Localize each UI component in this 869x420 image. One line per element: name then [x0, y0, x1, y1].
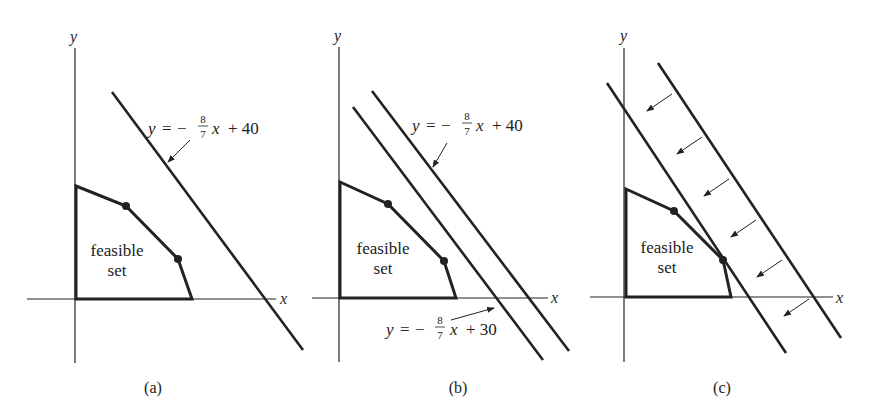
svg-text:=: = [426, 116, 436, 135]
y-axis-label: y [618, 27, 628, 45]
svg-text:7: 7 [464, 125, 470, 137]
svg-text:8: 8 [464, 110, 470, 122]
svg-text:x: x [475, 116, 484, 135]
line-label-40: y = − 8 7 x + 40 [146, 113, 259, 140]
svg-text:=: = [162, 119, 172, 138]
x-axis-label: x [835, 289, 843, 306]
svg-text:=: = [400, 320, 410, 339]
region-label-line1: feasible [357, 239, 410, 258]
linear-programming-figure: y x feasible set y = − 8 7 x + 40 (a) y … [0, 0, 869, 420]
pointer-arrow [168, 140, 190, 162]
y-axis-label: y [68, 28, 78, 46]
svg-text:8: 8 [200, 113, 206, 125]
svg-text:y: y [384, 320, 394, 339]
region-label-line1: feasible [641, 238, 694, 257]
region-label-line2: set [658, 258, 677, 277]
svg-text:7: 7 [437, 329, 443, 341]
svg-text:7: 7 [200, 128, 206, 140]
svg-text:x: x [211, 119, 220, 138]
svg-text:y: y [146, 119, 156, 138]
panel-caption: (c) [713, 379, 731, 397]
panel-caption: (a) [144, 379, 162, 397]
pointer-arrow [433, 143, 447, 167]
line-label-30: y = − 8 7 x + 30 [384, 314, 497, 341]
line-label-40: y = − 8 7 x + 40 [410, 110, 523, 137]
pointer-arrow [451, 308, 494, 320]
region-label-line2: set [374, 259, 393, 278]
panel-caption: (b) [449, 379, 468, 397]
vertex-dot [384, 200, 392, 208]
objective-line-optimal [607, 83, 786, 353]
svg-text:+ 40: + 40 [228, 119, 259, 138]
panel-c: y x feasible set (c) [590, 27, 843, 397]
objective-line-40 [372, 91, 569, 351]
panel-a: y x feasible set y = − 8 7 x + 40 (a) [27, 28, 303, 397]
svg-text:+ 40: + 40 [492, 116, 523, 135]
svg-text:8: 8 [437, 314, 443, 326]
x-axis-label: x [279, 290, 287, 307]
region-label-line2: set [108, 261, 127, 280]
svg-text:−: − [415, 320, 425, 339]
vertex-dot [174, 255, 182, 263]
svg-text:+ 30: + 30 [466, 320, 497, 339]
region-label-line1: feasible [91, 241, 144, 260]
vertex-dot [670, 207, 678, 215]
vertex-dot [440, 257, 448, 265]
objective-line-30 [353, 107, 543, 360]
vertex-dot [122, 202, 130, 210]
svg-text:−: − [177, 119, 187, 138]
svg-text:x: x [449, 320, 458, 339]
x-axis-label: x [550, 289, 558, 306]
svg-text:−: − [441, 116, 451, 135]
panel-b: y x feasible set y = − 8 7 x + 40 y = − … [312, 27, 569, 397]
y-axis-label: y [332, 27, 342, 45]
svg-text:y: y [410, 116, 420, 135]
